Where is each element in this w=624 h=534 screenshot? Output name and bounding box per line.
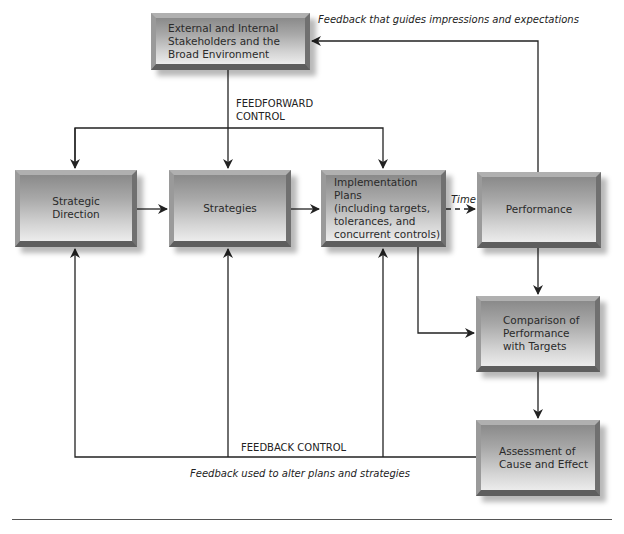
comparison-node: Comparison of Performance with Targets — [476, 296, 600, 372]
stakeholders-label: External and Internal Stakeholders and t… — [168, 22, 280, 61]
implementation-plans-node: Implementation Plans (including targets,… — [321, 170, 446, 247]
bottom-divider — [12, 519, 612, 520]
implementation-plans-label: Implementation Plans (including targets,… — [334, 176, 441, 241]
strategic-direction-label: Strategic Direction — [52, 195, 99, 221]
strategies-node: Strategies — [169, 170, 291, 247]
stakeholders-node: External and Internal Stakeholders and t… — [151, 13, 310, 70]
performance-node: Performance — [477, 172, 601, 248]
strategic-direction-node: Strategic Direction — [15, 170, 137, 247]
time-label: Time — [451, 193, 476, 206]
feedback-bottom-label: Feedback used to alter plans and strateg… — [190, 467, 410, 480]
feedback-top-label: Feedback that guides impressions and exp… — [318, 13, 579, 26]
feedforward-control-label: FEEDFORWARD CONTROL — [236, 97, 313, 123]
strategies-label: Strategies — [203, 202, 257, 215]
performance-label: Performance — [506, 203, 573, 216]
comparison-label: Comparison of Performance with Targets — [503, 314, 579, 353]
assessment-label: Assessment of Cause and Effect — [499, 445, 588, 471]
feedback-control-label: FEEDBACK CONTROL — [241, 441, 346, 454]
assessment-node: Assessment of Cause and Effect — [476, 420, 600, 496]
